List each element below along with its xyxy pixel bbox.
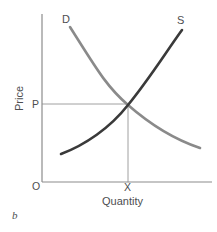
supply-curve-label: S xyxy=(177,15,184,26)
origin-label: O xyxy=(32,181,40,192)
supply-demand-figure: Price Quantity D S P X O b xyxy=(0,0,217,232)
demand-curve xyxy=(70,27,200,148)
y-axis-title: Price xyxy=(14,86,25,111)
equilibrium-quantity-label: X xyxy=(124,182,131,193)
demand-curve-label: D xyxy=(62,14,70,25)
figure-letter: b xyxy=(12,210,18,221)
x-axis-title: Quantity xyxy=(102,196,143,207)
supply-curve xyxy=(61,30,182,154)
equilibrium-price-label: P xyxy=(32,99,39,110)
